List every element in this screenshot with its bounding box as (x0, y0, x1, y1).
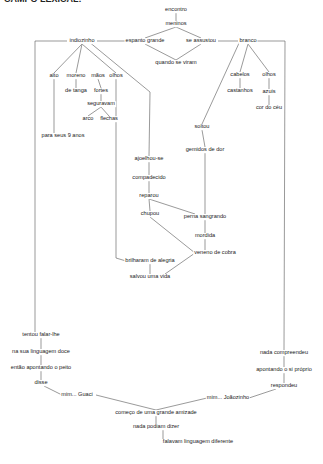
connector-line (82, 44, 116, 73)
node-joaozinho: mim... Joãozinho (206, 395, 250, 401)
node-chupou: chupou (140, 211, 160, 217)
connector-line (149, 92, 150, 156)
connector-line (76, 44, 82, 73)
connector-line (202, 41, 240, 124)
connector-line (150, 217, 195, 253)
connector-line (156, 398, 207, 410)
connector-line (96, 395, 156, 410)
connector-line (249, 389, 276, 398)
node-apontando2: apontando o si próprio (255, 367, 313, 373)
connector-line (176, 44, 201, 60)
node-seguravam: seguravam (86, 101, 116, 107)
node-maos: mãos (90, 73, 106, 79)
node-amizade: começo de uma grande amizade (114, 410, 197, 416)
connector-line (88, 41, 150, 92)
node-perna: perna sangrando (183, 214, 227, 220)
node-dizer: nada podiam dizer (132, 424, 180, 430)
node-linguagem: na sua linguagem doce (11, 349, 71, 355)
node-arco: arco (82, 116, 95, 122)
node-assustou: se assustou (185, 38, 217, 44)
connector-line (284, 41, 285, 350)
diagram-connectors (0, 0, 323, 464)
node-moreno: moreno (66, 73, 87, 79)
node-soltou: soltou (194, 124, 211, 130)
node-fortes: fortes (93, 88, 109, 94)
connector-line (248, 44, 269, 72)
node-reparou: reparou (138, 193, 159, 199)
node-flechas: flechas (99, 116, 119, 122)
node-nove: para seus 9 anos (41, 133, 86, 139)
connector-line (145, 44, 176, 60)
node-salvou: salvou uma vida (129, 274, 171, 280)
connector-line (240, 44, 248, 72)
node-veneno: veneno de cobra (193, 250, 237, 256)
node-brilharam: brilharam de alegria (124, 258, 175, 264)
node-tentou: tentou falar-lhe (21, 332, 60, 338)
node-castanhos: castanhos (226, 88, 254, 94)
node-guaci: mim... Guaci (60, 392, 93, 398)
node-ceu: cor do céu (255, 105, 283, 111)
node-meninos: meninos (164, 21, 187, 27)
node-encontro: encontro (164, 7, 188, 13)
node-compadecido: compadecido (131, 175, 166, 181)
node-disse: disse (33, 380, 48, 386)
node-olhos1: olhos (108, 73, 123, 79)
node-mordida: mordida (194, 233, 216, 239)
node-azuis: azuis (261, 89, 276, 95)
connector-line (202, 130, 205, 147)
connector-line (44, 386, 62, 395)
node-tanga: de tanga (64, 88, 88, 94)
node-compreendeu: nada compreendeu (259, 350, 309, 356)
node-branco: branco (238, 38, 257, 44)
node-cabelos: cabelos (229, 72, 250, 78)
connector-line (149, 199, 150, 211)
node-ajoelhou: ajoelhou-se (134, 156, 165, 162)
node-diferente: falavam linguagem diferente (162, 439, 234, 445)
node-indiozinho: indiozinho (68, 38, 95, 44)
node-olhos2: olhos (261, 72, 276, 78)
node-respondeu: respondeu (270, 383, 298, 389)
node-espanto: espanto grande (125, 38, 166, 44)
node-apontando1: então apontando o peito (10, 365, 72, 371)
node-alto: alto (48, 73, 59, 79)
connector-line (54, 44, 82, 73)
node-viram: quando se viram (154, 60, 197, 66)
node-gemidos: gemidos de dor (185, 147, 226, 153)
